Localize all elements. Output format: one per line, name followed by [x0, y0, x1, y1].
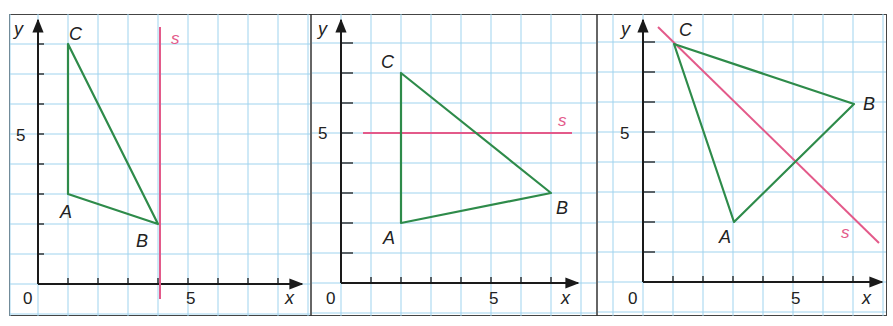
grid-2 — [312, 14, 596, 316]
axes-2 — [341, 20, 578, 283]
x-tick-5-label-1: 5 — [186, 289, 195, 308]
origin-label-1: 0 — [23, 289, 32, 308]
point-label-b-1: B — [136, 231, 148, 251]
origin-label-2: 0 — [326, 289, 335, 308]
triangle-abc-3 — [674, 44, 854, 222]
x-tick-5-label-2: 5 — [489, 289, 498, 308]
y-axis-label-3: y — [619, 19, 631, 39]
y-tick-5-label-2: 5 — [318, 124, 327, 143]
x-axis-label-1: x — [284, 288, 295, 308]
origin-label-3: 0 — [628, 289, 637, 308]
x-axis-label-3: x — [861, 288, 872, 308]
point-label-b-3: B — [863, 94, 875, 114]
y-tick-5-label-1: 5 — [16, 126, 25, 145]
point-label-c-1: C — [69, 24, 83, 44]
triangle-abc-2 — [401, 73, 551, 223]
panel-2: y x 0 5 5 C A B s — [312, 14, 596, 316]
point-label-c-2: C — [381, 52, 395, 72]
figure-canvas: y x 0 5 5 C A B s — [0, 0, 893, 326]
point-label-a-2: A — [382, 228, 395, 248]
line-s-label-2: s — [558, 111, 567, 130]
point-label-b-2: B — [556, 198, 568, 218]
x-tick-5-label-3: 5 — [791, 289, 800, 308]
panel-3: y x 0 5 5 C A B s — [598, 14, 886, 316]
y-tick-5-label-3: 5 — [620, 124, 629, 143]
point-label-a-1: A — [59, 202, 72, 222]
x-axis-label-2: x — [560, 288, 571, 308]
axes-1 — [38, 20, 302, 284]
y-axis-label-2: y — [316, 19, 328, 39]
line-s-3 — [658, 27, 879, 243]
line-s-label-3: s — [841, 223, 850, 242]
panel-1: y x 0 5 5 C A B s — [10, 14, 310, 316]
line-s-label-1: s — [171, 29, 180, 48]
point-label-c-3: C — [679, 20, 693, 40]
y-axis-label-1: y — [12, 19, 24, 39]
grid-3 — [598, 14, 886, 316]
point-label-a-3: A — [718, 227, 731, 247]
